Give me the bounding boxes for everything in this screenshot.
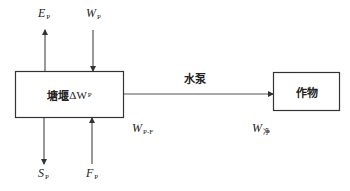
- pump-label: 水泵: [184, 74, 206, 85]
- seepage-label: SP: [38, 167, 49, 181]
- transfer-label: WP-F: [132, 122, 153, 136]
- evaporation-label: EP: [38, 7, 50, 21]
- pond-node-label: 塘堰ΔWP: [16, 72, 123, 117]
- supply-label: FP: [86, 167, 98, 181]
- inflow-label: WP: [86, 7, 101, 21]
- net-label: W净: [252, 122, 270, 136]
- crop-node-label: 作物: [274, 73, 339, 110]
